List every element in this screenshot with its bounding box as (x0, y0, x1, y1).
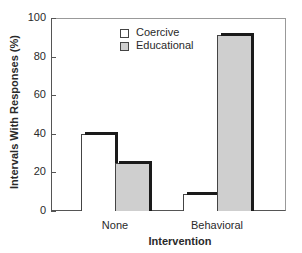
y-tick-label: 100 (16, 11, 46, 23)
x-axis-title: Intervention (130, 235, 230, 247)
legend-label-coercive: Coercive (136, 26, 179, 38)
y-tick (51, 134, 56, 135)
y-tick-label: 20 (16, 165, 46, 177)
y-tick-label: 40 (16, 127, 46, 139)
y-tick (51, 172, 56, 173)
y-tick (51, 95, 56, 96)
legend-swatch-coercive (120, 29, 129, 38)
bar-none-educational (115, 163, 149, 211)
bar-behavioral-educational (217, 35, 251, 211)
x-tick-label-none: None (95, 219, 135, 231)
x-tick-label-behavioral: Behavioral (182, 219, 252, 231)
y-axis-title: Intervals With Responses (%) (8, 32, 20, 192)
bar-behavioral-coercive (183, 194, 217, 211)
legend-swatch-educational (120, 42, 129, 51)
y-tick-label: 80 (16, 50, 46, 62)
y-tick (51, 18, 56, 19)
legend-label-educational: Educational (136, 39, 194, 51)
y-tick (51, 211, 56, 212)
y-tick-label: 0 (16, 204, 46, 216)
y-tick-label: 60 (16, 88, 46, 100)
y-tick (51, 57, 56, 58)
bar-none-coercive (81, 134, 115, 211)
